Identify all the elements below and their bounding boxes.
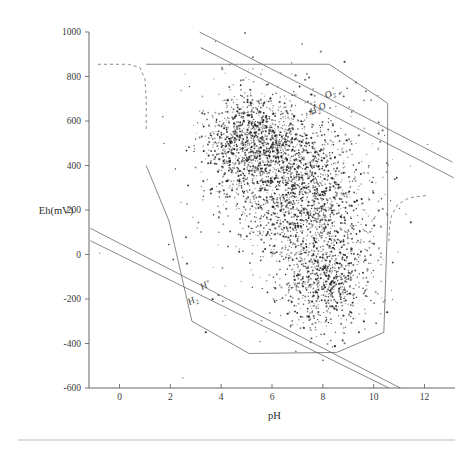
species-text: H2O <box>307 100 328 119</box>
y-tick-label: 0 <box>76 250 81 260</box>
x-axis-title: pH <box>268 410 281 421</box>
y-tick-label: 1000 <box>62 27 81 37</box>
x-tick-label: 2 <box>168 392 173 402</box>
hydrogen-upper-line <box>90 228 400 388</box>
hydrogen-lower-line <box>90 241 389 388</box>
x-tick-label: 6 <box>270 392 275 402</box>
species-text: H2 <box>185 293 201 309</box>
y-tick-label: -400 <box>64 339 82 349</box>
scatter-layer <box>99 32 428 379</box>
y-tick-label: -200 <box>64 294 82 304</box>
y-tick-label: 400 <box>67 161 82 171</box>
plot-canvas: -600-400-20002004006008001000024681012Eh… <box>0 0 472 453</box>
x-tick-label: 12 <box>420 392 430 402</box>
species-label-h2o: H2O <box>307 100 328 119</box>
upper-right-dashed-arc <box>389 196 426 242</box>
y-tick-label: -600 <box>64 383 82 393</box>
upper-left-dashed-arc <box>98 64 146 130</box>
x-tick-label: 8 <box>320 392 325 402</box>
y-axis-title: Eh(mV) <box>39 205 74 217</box>
x-tick-label: 4 <box>219 392 224 402</box>
species-label-h2: H2 <box>185 293 201 309</box>
y-tick-label: 600 <box>67 116 82 126</box>
x-tick-label: 0 <box>117 392 122 402</box>
x-tick-label: 10 <box>369 392 379 402</box>
eh-ph-figure: -600-400-20002004006008001000024681012Eh… <box>0 0 472 453</box>
y-tick-label: 800 <box>67 72 82 82</box>
